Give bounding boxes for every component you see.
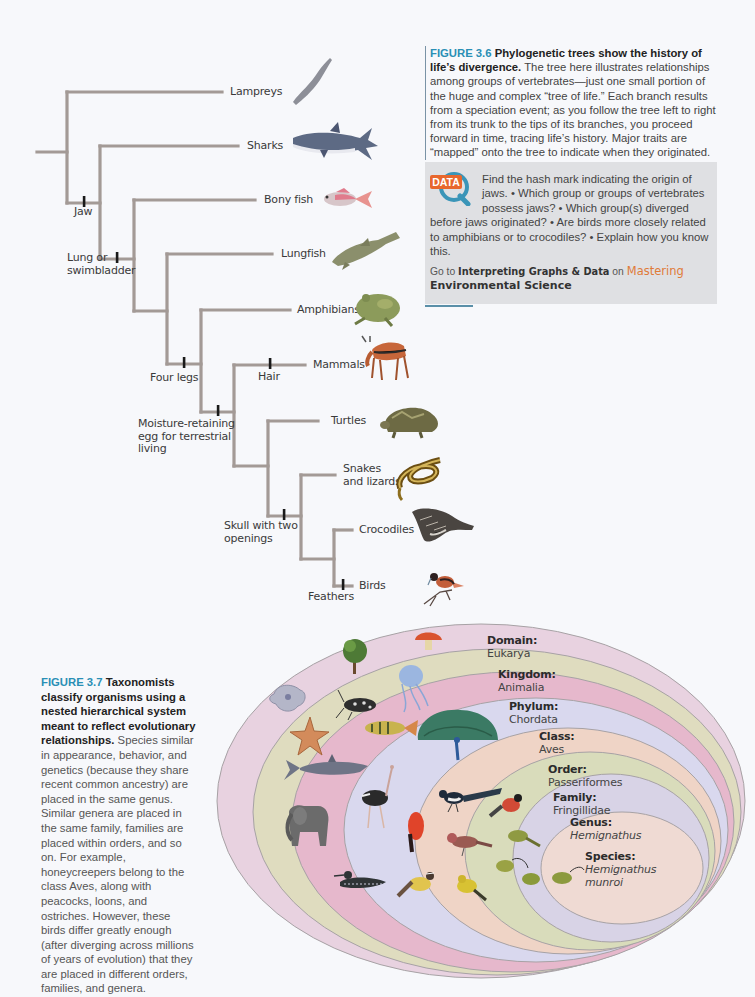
rank-label: Class:: [539, 730, 575, 743]
rank-label: Kingdom:: [498, 668, 556, 681]
taxonomy-level-genus: Genus:Hemignathus: [570, 816, 641, 842]
figure-3-7-caption: FIGURE 3.7 Taxonomists classify organism…: [41, 675, 196, 996]
figure-number: FIGURE 3.7: [41, 676, 103, 688]
taxonomy-level-domain: Domain:Eukarya: [487, 634, 537, 660]
taxon-name: Animalia: [498, 681, 556, 694]
rank-label: Family:: [553, 791, 610, 804]
figure-body: Species similar in appearance, behavior,…: [41, 734, 194, 994]
taxon-name: Hemignathus: [570, 829, 641, 842]
rank-label: Genus:: [570, 816, 641, 829]
taxonomy-level-kingdom: Kingdom:Animalia: [498, 668, 556, 694]
taxon-name: Passeriformes: [548, 776, 622, 789]
taxon-name: Eukarya: [487, 647, 537, 660]
taxonomy-level-class: Class:Aves: [539, 730, 575, 756]
rank-label: Phylum:: [509, 700, 558, 713]
rank-label: Order:: [548, 763, 622, 776]
taxonomy-level-species: Species:Hemignathusmunroi: [585, 850, 656, 889]
taxon-name: Hemignathusmunroi: [585, 863, 656, 889]
rank-label: Domain:: [487, 634, 537, 647]
taxon-name: Chordata: [509, 713, 558, 726]
taxonomy-level-family: Family:Fringillidae: [553, 791, 610, 817]
taxon-name: Aves: [539, 743, 575, 756]
taxonomy-level-phylum: Phylum:Chordata: [509, 700, 558, 726]
rank-label: Species:: [585, 850, 656, 863]
taxonomy-level-order: Order:Passeriformes: [548, 763, 622, 789]
